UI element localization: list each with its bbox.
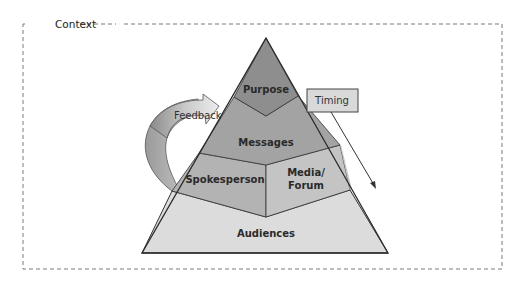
timing-label: Timing (314, 95, 349, 106)
audiences-label: Audiences (237, 228, 295, 239)
context-label: Context (55, 18, 96, 30)
timing-arrow-head (370, 181, 376, 189)
purpose-label: Purpose (243, 84, 289, 95)
communication-pyramid-diagram: Context Feedback Purpose Messages Spokes… (0, 0, 524, 283)
messages-label: Messages (238, 137, 293, 148)
forum-label: Forum (288, 180, 324, 191)
feedback-label: Feedback (174, 110, 222, 121)
spokesperson-label: Spokesperson (185, 174, 264, 185)
media-label: Media/ (287, 167, 325, 178)
